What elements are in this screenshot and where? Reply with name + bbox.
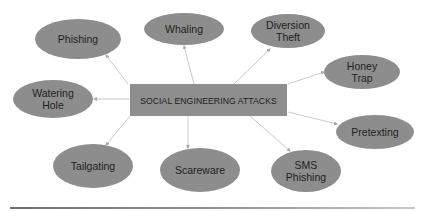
node-label-pretexting: Pretexting <box>351 126 398 138</box>
node-label-diversion-theft: Diversion <box>266 19 310 31</box>
connector-arrow-sms-phishing <box>250 116 290 151</box>
node-label-scareware: Scareware <box>175 164 225 176</box>
node-whaling: Whaling <box>144 13 224 45</box>
node-tailgating: Tailgating <box>53 144 133 188</box>
bottom-divider-line <box>10 207 415 209</box>
connector-arrow-whaling <box>184 46 194 84</box>
connector-arrow-tailgating <box>106 116 130 145</box>
node-label-whaling: Whaling <box>165 23 203 35</box>
node-label-honey-trap: Trap <box>351 72 372 84</box>
central-topic: SOCIAL ENGINEERING ATTACKS <box>130 84 287 116</box>
node-label-honey-trap: Honey <box>347 60 378 72</box>
connector-arrow-diversion-theft <box>234 49 270 84</box>
connector-arrow-pretexting <box>288 112 337 124</box>
connector-arrow-honey-trap <box>288 72 324 84</box>
central-topic-label: SOCIAL ENGINEERING ATTACKS <box>140 96 277 106</box>
node-sms-phishing: SMSPhishing <box>271 150 341 192</box>
connector-arrow-phishing <box>106 55 128 84</box>
social-engineering-diagram: PhishingWhalingDiversionTheftHoneyTrapWa… <box>0 0 426 211</box>
node-diversion-theft: DiversionTheft <box>251 14 325 48</box>
node-label-tailgating: Tailgating <box>71 160 116 172</box>
node-pretexting: Pretexting <box>336 115 414 149</box>
node-label-watering-hole: Hole <box>42 99 64 111</box>
node-scareware: Scareware <box>160 148 240 192</box>
node-label-phishing: Phishing <box>58 33 98 45</box>
node-phishing: Phishing <box>35 19 121 59</box>
node-label-sms-phishing: SMS <box>295 159 318 171</box>
node-label-watering-hole: Watering <box>32 87 74 99</box>
node-honey-trap: HoneyTrap <box>324 55 400 89</box>
node-watering-hole: WateringHole <box>13 80 93 118</box>
node-label-sms-phishing: Phishing <box>286 171 326 183</box>
node-label-diversion-theft: Theft <box>276 31 300 43</box>
